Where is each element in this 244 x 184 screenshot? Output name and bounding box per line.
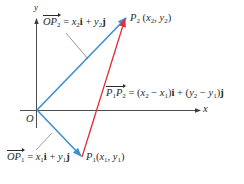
op2-vector-name: OP2 [43, 17, 61, 29]
p1-point-label: P1(x1, y1) [86, 152, 125, 164]
op1-equation-label: OP1 = x1i + y1j [7, 152, 70, 164]
op1-vector-name: OP1 [7, 152, 25, 164]
p2-point-label: P2 (x2, y2) [130, 13, 171, 25]
origin-label: O [26, 114, 34, 125]
y-axis-label: y [34, 3, 38, 12]
op2-leader-line [66, 33, 88, 59]
x-axis-label: x [203, 104, 208, 115]
vector-op1 [37, 110, 81, 156]
op1-leader-line [36, 133, 52, 150]
p1p2-vector-name: P1P2 [106, 88, 126, 100]
op2-equation-label: OP2 = x2i + y2j [43, 17, 106, 29]
p1p2-equation-label: P1P2 = (x2 − x1)i + (y2 − y1)j [106, 88, 224, 100]
vector-diagram: y x O OP2 = x2i + y2j P2 (x2, y2) P1P2 =… [0, 0, 244, 184]
